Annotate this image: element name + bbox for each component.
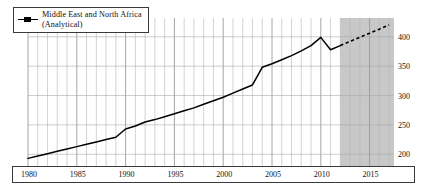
legend-label: Middle East and North Africa (Analytical…	[42, 10, 142, 29]
x-tick-label: 2000	[216, 170, 232, 179]
chart-container: Middle East and North Africa (Analytical…	[0, 0, 427, 189]
x-tick-label: 2010	[314, 170, 330, 179]
y-tick-label: 200	[398, 150, 410, 159]
x-tick-label: 1980	[21, 170, 37, 179]
chart-legend: Middle East and North Africa (Analytical…	[13, 7, 149, 33]
x-tick-label: 2005	[265, 170, 281, 179]
y-tick-label: 350	[398, 62, 410, 71]
forecast-shaded-region	[340, 18, 394, 166]
legend-label-line1: Middle East and North Africa	[42, 10, 142, 19]
x-tick-label: 1995	[167, 170, 183, 179]
x-tick-label: 1990	[119, 170, 135, 179]
x-axis: 19801985199019952000200520102015	[12, 166, 415, 183]
y-tick-label: 400	[398, 32, 410, 41]
x-tick-label: 1985	[70, 170, 86, 179]
y-tick-label: 300	[398, 91, 410, 100]
x-tick-label: 2015	[363, 170, 379, 179]
legend-marker-icon	[18, 15, 38, 25]
legend-label-line2: (Analytical)	[42, 20, 142, 30]
y-tick-label: 250	[398, 120, 410, 129]
gridlines-horizontal	[28, 37, 394, 154]
